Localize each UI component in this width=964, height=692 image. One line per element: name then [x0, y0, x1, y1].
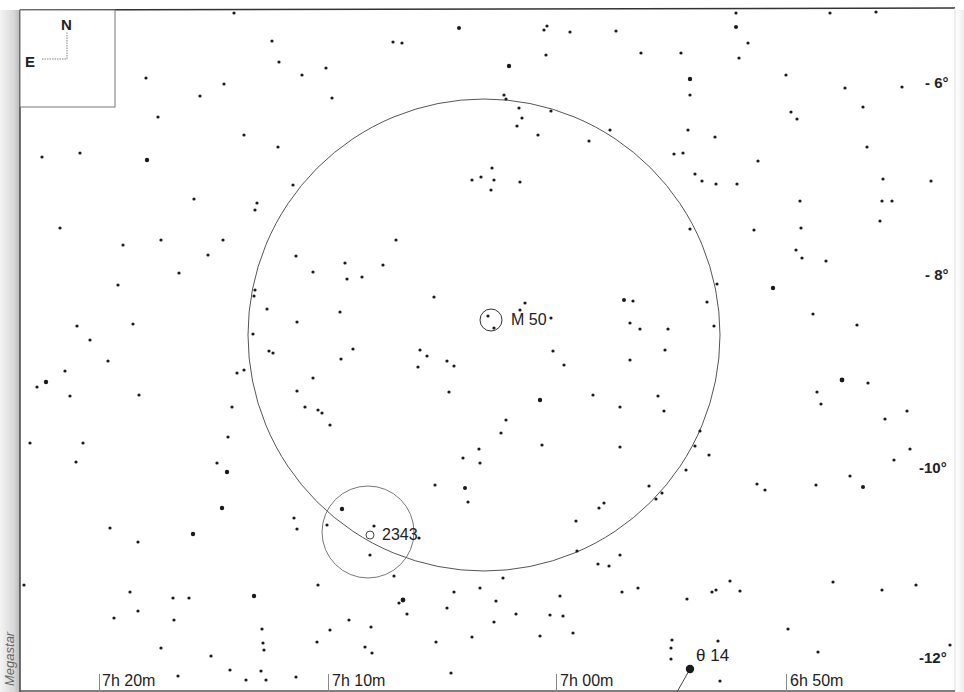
star-icon — [718, 679, 721, 682]
star-icon — [316, 408, 319, 411]
star-icon — [596, 562, 599, 565]
star-icon — [58, 226, 61, 229]
star-icon — [843, 86, 846, 89]
star-icon — [187, 596, 190, 599]
star-icon — [316, 583, 319, 586]
star-icon — [819, 402, 822, 405]
star-icon — [324, 66, 327, 69]
star-icon — [540, 443, 543, 446]
star-icon — [538, 634, 541, 637]
star-icon — [816, 650, 819, 653]
ra-tick-7h00m — [556, 674, 557, 692]
m50-cluster-marker-icon[interactable] — [480, 309, 502, 331]
star-icon — [360, 275, 363, 278]
star-icon — [434, 640, 437, 643]
star-icon — [131, 322, 134, 325]
star-icon — [542, 28, 545, 31]
star-icon — [517, 106, 520, 109]
star-icon — [693, 444, 696, 447]
star-icon — [106, 359, 109, 362]
star-icon — [800, 256, 803, 259]
ngc2343-label[interactable]: 2343 — [382, 526, 418, 544]
star-icon — [602, 501, 605, 504]
star-icon — [88, 338, 91, 341]
star-icon — [489, 188, 492, 191]
star-icon — [311, 270, 314, 273]
star-icon — [295, 527, 298, 530]
star-icon — [345, 277, 348, 280]
star-icon — [328, 423, 331, 426]
star-icon — [591, 393, 594, 396]
theta-14-star-icon[interactable] — [686, 665, 694, 673]
star-icon — [311, 376, 314, 379]
star-icon — [688, 77, 692, 81]
star-icon — [22, 583, 25, 586]
compass-east-label: E — [25, 53, 35, 70]
star-icon — [35, 385, 38, 388]
star-icon — [328, 628, 331, 631]
star-icon — [265, 307, 268, 310]
star-icon — [81, 441, 84, 444]
dec-label-minus-6: - 6° — [925, 74, 949, 91]
star-icon — [523, 301, 526, 304]
star-icon — [222, 82, 225, 85]
star-icon — [244, 678, 247, 681]
star-icon — [370, 651, 373, 654]
star-icon — [735, 182, 738, 185]
star-icon — [267, 349, 270, 352]
ngc2343-cluster-marker-icon[interactable] — [366, 531, 374, 539]
star-icon — [562, 363, 565, 366]
star-icon — [494, 599, 497, 602]
star-icon — [242, 133, 245, 136]
star-icon — [544, 53, 547, 56]
star-icon — [159, 646, 162, 649]
star-icon — [515, 124, 518, 127]
star-icon — [574, 519, 577, 522]
star-icon — [608, 128, 611, 131]
star-icon — [908, 447, 911, 450]
star-icon — [242, 368, 245, 371]
star-icon — [347, 618, 350, 621]
star-icon — [171, 596, 174, 599]
star-icon — [571, 631, 574, 634]
star-icon — [660, 491, 663, 494]
star-icon — [639, 51, 642, 54]
ra-tick-7h20m — [99, 674, 100, 692]
star-icon — [78, 151, 81, 154]
star-icon — [654, 497, 657, 500]
star-icon — [666, 327, 669, 330]
star-icon — [716, 639, 719, 642]
star-icon — [315, 640, 318, 643]
star-icon — [622, 298, 626, 302]
star-icon — [177, 271, 180, 274]
star-icon — [253, 208, 256, 211]
star-icon — [507, 64, 511, 68]
star-icon — [295, 389, 298, 392]
star-icon — [198, 94, 201, 97]
star-icon — [728, 579, 731, 582]
star-icon — [865, 145, 868, 148]
star-icon — [504, 418, 507, 421]
star-icon — [425, 354, 428, 357]
star-icon — [561, 614, 564, 617]
star-icon — [492, 620, 495, 623]
star-icon — [784, 73, 787, 76]
theta-14-label[interactable]: θ 14 — [696, 646, 729, 666]
star-icon — [669, 646, 672, 649]
star-icon — [251, 332, 254, 335]
star-icon — [191, 532, 195, 536]
star-icon — [470, 635, 473, 638]
ra-label-7h20m: 7h 20m — [102, 672, 155, 690]
star-icon — [614, 29, 617, 32]
star-icon — [276, 145, 279, 148]
star-icon — [401, 598, 406, 603]
star-icon — [320, 411, 323, 414]
star-icon — [734, 25, 738, 29]
star-icon — [418, 348, 421, 351]
star-icon — [738, 589, 741, 592]
m50-label[interactable]: M 50 — [511, 311, 547, 329]
star-icon — [734, 11, 737, 14]
star-icon — [568, 30, 571, 33]
star-icon — [144, 76, 147, 79]
star-icon — [63, 369, 66, 372]
